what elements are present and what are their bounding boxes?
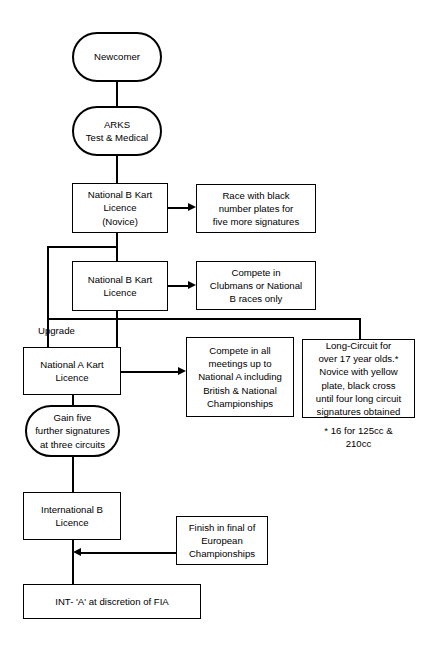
arrowhead-national-a-to-compete-all <box>178 367 186 375</box>
arrowhead-european-to-junction <box>73 548 81 556</box>
node-int-a-at-discretion-of-fia: INT- 'A' at discretion of FIA <box>23 584 201 619</box>
connector-national-a-to-gain-five <box>72 395 74 407</box>
connector-bypass-top-horizontal <box>47 246 117 248</box>
arrowhead-novice-to-race-plates <box>188 203 196 211</box>
node-arks-test-medical: ARKS Test & Medical <box>72 106 162 156</box>
arrowhead-national-b-to-clubmans <box>188 281 196 289</box>
node-finish-in-final-of-european-championships: Finish in final of European Championship… <box>176 516 268 565</box>
connector-arks-to-national-b-novice <box>116 156 118 183</box>
connector-upgrade-to-national-a-right <box>116 318 118 347</box>
connector-newcomer-to-arks <box>116 82 118 106</box>
connector-national-b-to-clubmans <box>168 285 189 287</box>
flowchart-canvas: Newcomer ARKS Test & Medical National B … <box>0 0 432 649</box>
connector-gain-five-to-international-b <box>72 455 74 492</box>
node-race-with-black-number-plates: Race with black number plates for five m… <box>196 184 316 233</box>
node-national-b-kart-licence: National B Kart Licence <box>72 261 168 311</box>
node-newcomer: Newcomer <box>72 32 162 82</box>
node-long-circuit: Long-Circuit for over 17 year olds.* Nov… <box>302 339 415 418</box>
connector-upgrade-to-national-a-left <box>47 318 49 347</box>
connector-european-to-junction <box>81 552 176 554</box>
connector-international-b-to-int-a <box>72 540 74 584</box>
connector-bypass-left-vertical <box>47 246 49 318</box>
node-compete-in-all-meetings: Compete in all meetings up to National A… <box>186 337 294 417</box>
label-footnote-125cc: * 16 for 125cc & 210cc <box>302 424 415 450</box>
node-national-a-kart-licence: National A Kart Licence <box>23 347 121 395</box>
node-international-b-licence: International B Licence <box>23 492 121 540</box>
node-national-b-kart-licence-novice: National B Kart Licence (Novice) <box>72 183 168 233</box>
connector-novice-to-race-plates <box>168 207 189 209</box>
connector-national-a-to-compete-all <box>121 371 179 373</box>
connector-upgrade-bus <box>47 318 360 320</box>
connector-upgrade-to-long-circuit <box>359 318 361 339</box>
node-gain-five-further-signatures: Gain five further signatures at three ci… <box>25 405 120 457</box>
node-compete-in-clubmans: Compete in Clubmans or National B races … <box>196 261 316 310</box>
